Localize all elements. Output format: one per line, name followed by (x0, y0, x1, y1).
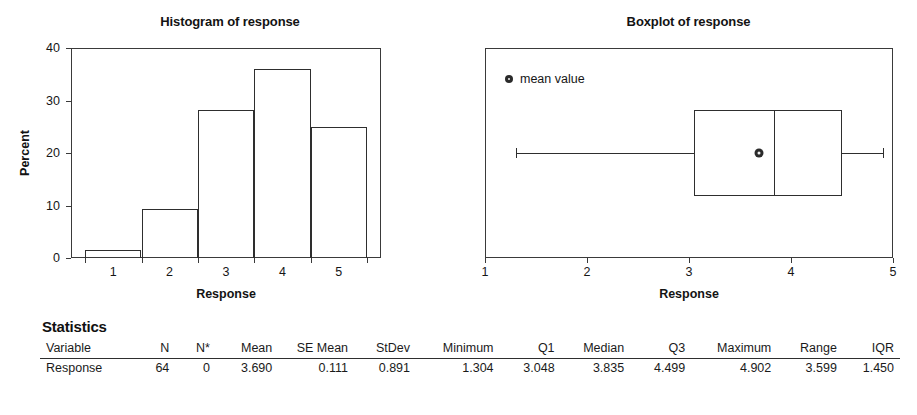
column-header-maximum: Maximum (691, 339, 777, 359)
histogram-xtick-label-4: 4 (279, 265, 286, 279)
histogram-ytick-label-30: 30 (24, 94, 60, 108)
statistics-heading: Statistics (42, 318, 900, 335)
boxplot-xtick-label-3: 3 (686, 265, 693, 279)
histogram-ytick-label-0: 0 (24, 251, 60, 265)
cell-range: 3.599 (777, 359, 843, 379)
cell-stdev: 0.891 (354, 359, 416, 379)
cell-se-mean: 0.111 (278, 359, 354, 379)
cell-median: 3.835 (561, 359, 631, 379)
histogram-bar-2 (142, 209, 198, 258)
column-header-n-missing: N* (175, 339, 216, 359)
table-header-row: Variable N N* Mean SE Mean StDev Minimum… (40, 339, 900, 359)
histogram-ytick-label-10: 10 (24, 199, 60, 213)
column-header-minimum: Minimum (416, 339, 500, 359)
boxplot-xtick-mark-4 (791, 258, 792, 263)
boxplot-box (694, 110, 842, 196)
histogram-xtick-mark-2 (198, 258, 199, 263)
column-header-n: N (135, 339, 176, 359)
histogram-xtick-label-1: 1 (110, 265, 117, 279)
column-header-median: Median (561, 339, 631, 359)
boxplot-xaxis-title: Response (659, 287, 719, 301)
cell-variable: Response (40, 359, 135, 379)
histogram-ytick-label-40: 40 (24, 41, 60, 55)
column-header-se-mean: SE Mean (278, 339, 354, 359)
cell-q3: 4.499 (630, 359, 691, 379)
histogram-xtick-label-5: 5 (335, 265, 342, 279)
column-header-variable: Variable (40, 339, 135, 359)
histogram-xtick-mark-5 (367, 258, 368, 263)
boxplot-median-line (774, 110, 775, 196)
boxplot-upper-whisker-cap (883, 148, 884, 158)
histogram-xtick-mark-0 (85, 258, 86, 263)
boxplot-panel: Boxplot of response mean value 1 2 3 4 5… (460, 0, 917, 305)
column-header-stdev: StDev (354, 339, 416, 359)
cell-q1: 3.048 (500, 359, 561, 379)
column-header-iqr: IQR (843, 339, 900, 359)
histogram-bar-5 (311, 127, 367, 258)
histogram-bar-4 (254, 69, 310, 258)
boxplot-xtick-mark-5 (893, 258, 894, 263)
cell-minimum: 1.304 (416, 359, 500, 379)
boxplot-mean-marker (755, 149, 764, 158)
cell-maximum: 4.902 (691, 359, 777, 379)
histogram-xtick-label-3: 3 (223, 265, 230, 279)
statistics-table: Variable N N* Mean SE Mean StDev Minimum… (40, 339, 900, 378)
histogram-bar-3 (198, 110, 254, 258)
column-header-q3: Q3 (630, 339, 691, 359)
cell-iqr: 1.450 (843, 359, 900, 379)
boxplot-lower-whisker-cap (516, 148, 517, 158)
column-header-q1: Q1 (500, 339, 561, 359)
histogram-bars (71, 48, 381, 258)
histogram-panel: Histogram of response 0 10 20 30 40 1 2 … (0, 0, 460, 305)
histogram-yaxis-title: Percent (18, 130, 32, 176)
boxplot-xtick-mark-1 (485, 258, 486, 263)
boxplot-data-layer (485, 48, 893, 258)
histogram-bar-1 (85, 250, 141, 258)
histogram-xtick-mark-1 (142, 258, 143, 263)
cell-n-missing: 0 (175, 359, 216, 379)
column-header-mean: Mean (216, 339, 278, 359)
boxplot-title: Boxplot of response (460, 14, 917, 29)
histogram-xtick-mark-3 (254, 258, 255, 263)
boxplot-xtick-mark-2 (587, 258, 588, 263)
statistics-section: Statistics Variable N N* Mean SE Mean St… (40, 318, 900, 378)
boxplot-upper-whisker (842, 153, 883, 154)
histogram-xaxis-title: Response (196, 287, 256, 301)
boxplot-xtick-label-1: 1 (482, 265, 489, 279)
histogram-xtick-label-2: 2 (166, 265, 173, 279)
histogram-ytick-mark-0 (66, 258, 71, 259)
boxplot-xtick-mark-3 (689, 258, 690, 263)
boxplot-xtick-label-4: 4 (788, 265, 795, 279)
boxplot-xtick-label-2: 2 (584, 265, 591, 279)
cell-mean: 3.690 (216, 359, 278, 379)
histogram-xtick-mark-4 (311, 258, 312, 263)
histogram-title: Histogram of response (0, 14, 460, 29)
boxplot-lower-whisker (516, 153, 694, 154)
column-header-range: Range (777, 339, 843, 359)
table-row: Response 64 0 3.690 0.111 0.891 1.304 3.… (40, 359, 900, 379)
cell-n: 64 (135, 359, 176, 379)
boxplot-xtick-label-5: 5 (890, 265, 897, 279)
